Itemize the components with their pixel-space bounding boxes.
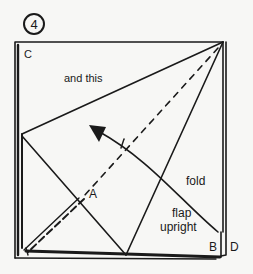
upper-fold-edge [22,42,223,134]
corner-label-c: C [24,49,32,60]
instruction-flap: flap [172,207,191,219]
bottom-outer-edge [15,258,216,259]
step-number-badge: 4 [23,13,45,35]
corner-label-d: D [230,241,239,253]
lower-diagonal-dashed [28,199,84,252]
instruction-and-this: and this [64,73,103,84]
corner-label-b: B [209,241,217,253]
instruction-upright: upright [160,221,197,233]
step-number: 4 [30,17,37,32]
point-label-a: A [89,188,97,200]
origami-diagram [0,0,253,274]
lower-diagonal-solid [24,198,79,250]
instruction-fold: fold [186,175,205,187]
